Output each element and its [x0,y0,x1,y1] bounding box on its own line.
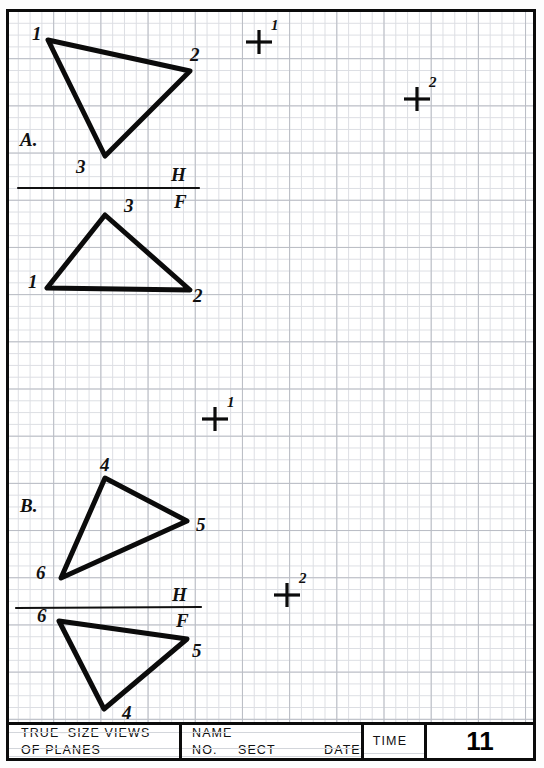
target-point-2-cross-icon [404,87,430,111]
worksheet-sheet: A.123312HF12B.456654HF12 TRUE−SIZE VIEWS… [0,0,544,768]
section-label-b: B. [20,496,37,515]
title-block-sheet-number: 11 [427,725,533,758]
target-point-label-2: 2 [429,75,437,90]
title-block: TRUE−SIZE VIEWS OF PLANES NAME NO. SECT … [6,722,536,761]
vertex-label-3: 3 [124,196,134,215]
section-label-a: A. [20,130,37,149]
name-label: NAME [192,725,361,742]
target-point-1-cross-icon [246,30,272,54]
fold-line-label-h: H [171,165,186,184]
vertex-label-1: 1 [32,24,42,43]
triangle-a-top-view [48,40,190,156]
triangle-b-top-view [61,478,187,578]
title-block-time-field: TIME [364,725,424,758]
fold-line-label-f: F [176,611,189,630]
triangle-b-front-view [59,621,187,709]
drawing-layer [0,0,544,768]
vertex-label-4: 4 [100,455,110,474]
vertex-label-3: 3 [76,157,86,176]
drawing-title-line1: TRUE−SIZE VIEWS [21,725,179,742]
target-point-label-2: 2 [299,571,307,586]
vertex-label-1: 1 [28,272,38,291]
vertex-label-2: 2 [190,45,200,64]
fold-line-label-h: H [172,585,187,604]
title-block-name-fields: NAME NO. SECT DATE [182,725,361,758]
target-point-1-cross-icon [202,407,228,431]
vertex-label-4: 4 [122,703,132,722]
time-label: TIME [373,733,424,750]
sheet-number: 11 [466,726,494,757]
vertex-label-5: 5 [192,641,202,660]
vertex-label-6: 6 [37,606,47,625]
triangle-a-front-view [47,215,190,290]
fold-line-label-f: F [174,192,187,211]
target-point-label-1: 1 [227,395,235,410]
target-point-2-cross-icon [274,583,300,607]
target-point-label-1: 1 [271,18,279,33]
title-block-drawing-title: TRUE−SIZE VIEWS OF PLANES [9,725,179,758]
vertex-label-6: 6 [36,563,46,582]
vertex-label-5: 5 [196,515,206,534]
vertex-label-2: 2 [193,286,203,305]
